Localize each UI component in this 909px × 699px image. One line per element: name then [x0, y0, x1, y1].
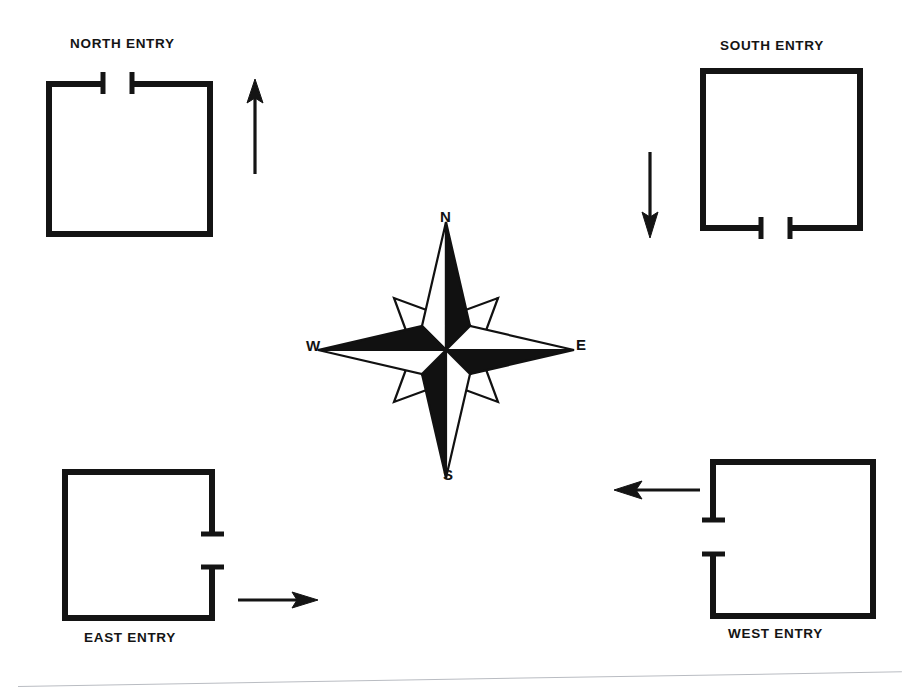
direction-arrow-left [614, 481, 700, 499]
compass-point-west-north-half [318, 326, 446, 350]
compass-rose: N E S W [296, 200, 606, 500]
compass-point-east-north-half [446, 326, 574, 350]
direction-arrow-right [238, 592, 318, 608]
compass-point-south-east-half [446, 350, 470, 478]
plan-west-entry-drawing [600, 448, 890, 653]
compass-label-south: S [443, 466, 453, 483]
plan-north-entry-label: NORTH ENTRY [70, 36, 175, 51]
plan-east-entry-drawing [42, 455, 322, 655]
plan-north-entry-drawing [42, 62, 282, 247]
compass-point-west-south-half [318, 350, 446, 374]
plan-west-entry: WEST ENTRY [600, 448, 890, 653]
compass-label-east: E [576, 336, 586, 353]
plan-south-entry-drawing [620, 42, 880, 252]
plan-south-entry: SOUTH ENTRY [620, 42, 880, 252]
doorway-jambs [702, 520, 725, 554]
compass-rose-drawing [296, 200, 606, 500]
doorway-jambs [103, 72, 132, 94]
direction-arrow-down [642, 152, 658, 238]
doorway-jambs [201, 534, 224, 567]
compass-label-north: N [440, 208, 451, 225]
direction-arrow-up [247, 79, 263, 174]
diagram-canvas: NORTH ENTRY [0, 0, 909, 699]
compass-label-west: W [306, 337, 321, 354]
plan-north-entry: NORTH ENTRY [42, 62, 282, 247]
page-edge-artifact [18, 671, 902, 687]
doorway-jambs [761, 217, 790, 239]
plan-east-entry: EAST ENTRY [42, 455, 322, 655]
